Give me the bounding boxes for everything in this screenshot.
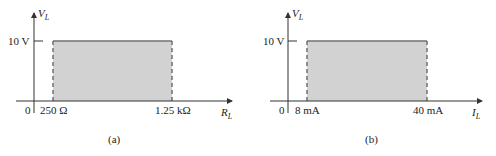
operating-region (53, 41, 172, 101)
y-axis-label: VL (292, 7, 304, 22)
origin-label: 0 (25, 104, 31, 116)
origin-label: 0 (279, 104, 285, 116)
y-tick-label: 10 V (263, 35, 285, 47)
caption-b: (b) (365, 133, 378, 146)
operating-region (307, 41, 427, 101)
x-max-label: 40 mA (413, 104, 443, 116)
panel-b: VL 10 V 0 8 mA 40 mA IL (b) (263, 7, 482, 146)
load-line-diagram: VL 10 V 0 250 Ω 1.25 kΩ RL (a) VL 10 V 0… (0, 0, 496, 156)
caption-a: (a) (108, 133, 121, 146)
x-min-label: 8 mA (295, 104, 320, 116)
x-min-label: 250 Ω (40, 104, 67, 116)
y-tick-label: 10 V (8, 35, 30, 47)
panel-a: VL 10 V 0 250 Ω 1.25 kΩ RL (a) (8, 7, 233, 146)
x-axis-label: RL (220, 106, 233, 121)
y-axis-label: VL (38, 7, 50, 22)
x-max-label: 1.25 kΩ (155, 104, 191, 116)
x-axis-label: IL (471, 106, 481, 121)
